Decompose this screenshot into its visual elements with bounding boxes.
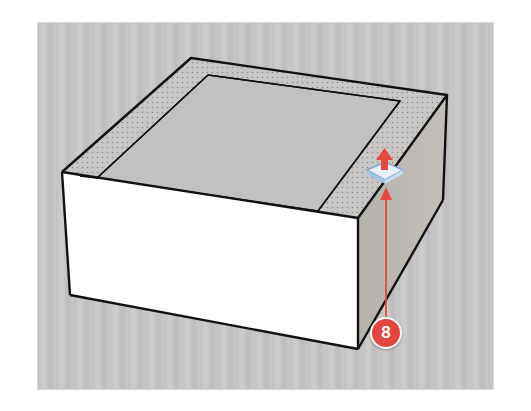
callout-number: 8 [381,323,390,343]
callout-badge: 8 [370,317,402,349]
box-model[interactable] [0,0,531,411]
